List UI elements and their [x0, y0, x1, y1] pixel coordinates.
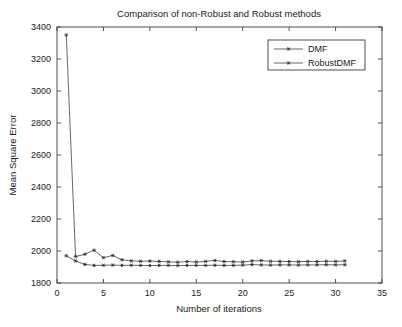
- y-tick-label: 2400: [31, 182, 51, 192]
- y-axis-title: Mean Square Error: [7, 115, 18, 196]
- x-tick-label: 10: [145, 288, 155, 298]
- y-tick-label: 1800: [31, 278, 51, 288]
- x-tick-label: 5: [101, 288, 106, 298]
- y-tick-label: 2600: [31, 150, 51, 160]
- x-tick-label: 20: [238, 288, 248, 298]
- x-tick-label: 25: [284, 288, 294, 298]
- figure-container: Comparison of non-Robust and Robust meth…: [0, 0, 402, 327]
- y-tick-label: 3200: [31, 54, 51, 64]
- y-tick-label: 2200: [31, 214, 51, 224]
- legend-label: DMF: [308, 44, 328, 54]
- x-tick-label: 35: [377, 288, 387, 298]
- chart-legend[interactable]: DMFRobustDMF: [268, 40, 365, 70]
- x-tick-label: 0: [54, 288, 59, 298]
- legend-label: RobustDMF: [308, 58, 357, 68]
- x-tick-label: 30: [331, 288, 341, 298]
- y-tick-label: 2000: [31, 246, 51, 256]
- y-tick-label: 2800: [31, 118, 51, 128]
- y-tick-label: 3000: [31, 86, 51, 96]
- chart-canvas: Comparison of non-Robust and Robust meth…: [0, 0, 402, 327]
- y-tick-label: 3400: [31, 22, 51, 32]
- chart-title: Comparison of non-Robust and Robust meth…: [117, 8, 321, 19]
- x-tick-label: 15: [191, 288, 201, 298]
- x-axis-title: Number of iterations: [176, 303, 262, 314]
